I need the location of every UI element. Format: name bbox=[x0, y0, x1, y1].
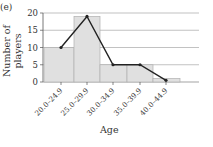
y-tick-label: 15 bbox=[27, 25, 38, 35]
data-point bbox=[164, 79, 167, 82]
x-tick-label: 30.0–34.9 bbox=[85, 86, 117, 118]
chart-plot: 0510152020.0–24.925.0–29.930.0–34.935.0–… bbox=[0, 0, 213, 147]
histogram-bar bbox=[44, 48, 74, 83]
y-tick-label: 0 bbox=[33, 77, 38, 87]
y-tick-label: 20 bbox=[27, 8, 38, 18]
data-point bbox=[111, 63, 114, 66]
data-point bbox=[138, 63, 141, 66]
histogram-bar bbox=[127, 65, 153, 82]
data-point bbox=[85, 15, 88, 18]
data-point bbox=[59, 46, 62, 49]
histogram-bar bbox=[100, 65, 127, 82]
x-tick-label: 40.0–44.9 bbox=[138, 86, 170, 118]
y-tick-label: 5 bbox=[33, 60, 38, 70]
y-tick-label: 10 bbox=[27, 43, 38, 53]
